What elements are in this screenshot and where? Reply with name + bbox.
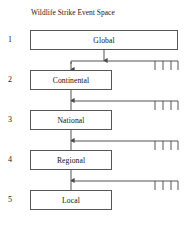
wildlife-strike-event-space-diagram: Wildlife Strike Event Space <box>0 0 191 245</box>
node-box-global[interactable]: Global <box>30 30 178 50</box>
connector-global-continental <box>71 50 178 70</box>
level-number-1: 1 <box>2 35 18 44</box>
node-label-national: National <box>58 116 85 125</box>
connector-national-regional <box>71 130 178 150</box>
level-number-5: 5 <box>2 195 18 204</box>
node-box-local[interactable]: Local <box>30 190 112 210</box>
node-label-local: Local <box>62 196 80 205</box>
level-number-4: 4 <box>2 155 18 164</box>
node-label-global: Global <box>93 36 114 45</box>
node-label-continental: Continental <box>53 76 90 85</box>
node-box-continental[interactable]: Continental <box>30 70 112 90</box>
level-number-3: 3 <box>2 115 18 124</box>
level-number-2: 2 <box>2 75 18 84</box>
connector-regional-local <box>71 170 178 190</box>
connector-continental-national <box>71 90 178 110</box>
node-box-national[interactable]: National <box>30 110 112 130</box>
node-label-regional: Regional <box>57 156 85 165</box>
node-box-regional[interactable]: Regional <box>30 150 112 170</box>
